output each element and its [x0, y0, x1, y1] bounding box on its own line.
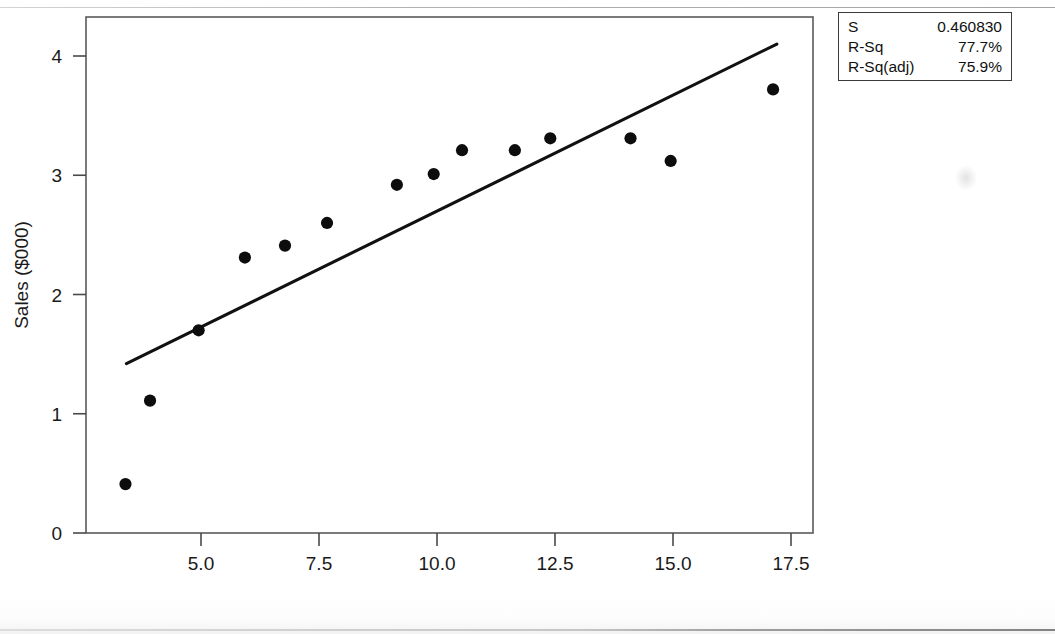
- regression-line: [126, 44, 776, 364]
- x-axis-title: Advertising Expenditures ($000): [314, 600, 584, 621]
- regression-stats-box: S 0.460830 R-Sq 77.7% R-Sq(adj) 75.9%: [838, 12, 1012, 81]
- data-point: [544, 132, 556, 144]
- data-point: [665, 155, 677, 167]
- scan-artifact-bottom-line: [0, 629, 1055, 631]
- x-axis-tick-label: 5.0: [188, 553, 214, 574]
- stat-label-s: S: [848, 17, 858, 37]
- data-point: [624, 132, 636, 144]
- data-point: [509, 144, 521, 156]
- stat-label-r-sq-adj: R-Sq(adj): [848, 57, 914, 77]
- data-point: [144, 395, 156, 407]
- stat-row: R-Sq(adj) 75.9%: [848, 57, 1002, 77]
- data-point: [193, 324, 205, 336]
- stat-value-r-sq-adj: 75.9%: [958, 57, 1002, 77]
- data-point: [321, 217, 333, 229]
- x-axis-tick-label: 15.0: [655, 553, 692, 574]
- x-axis-tick-label: 17.5: [773, 553, 810, 574]
- data-point: [279, 240, 291, 252]
- data-point: [428, 168, 440, 180]
- y-axis-tick-label: 4: [51, 46, 62, 67]
- y-axis-title: Sales ($000): [11, 221, 32, 329]
- y-axis-tick-label: 2: [51, 285, 62, 306]
- data-point: [119, 478, 131, 490]
- y-axis-tick-label: 1: [51, 404, 62, 425]
- data-point: [391, 179, 403, 191]
- plot-frame: [86, 17, 813, 533]
- stat-row: S 0.460830: [848, 17, 1002, 37]
- y-axis-tick-label: 0: [51, 523, 62, 544]
- scatter-plot-figure: 5.07.510.012.515.017.501234Advertising E…: [0, 0, 1055, 634]
- x-axis-tick-label: 10.0: [419, 553, 456, 574]
- x-axis-tick-label: 7.5: [306, 553, 332, 574]
- stat-value-r-sq: 77.7%: [958, 37, 1002, 57]
- stat-label-r-sq: R-Sq: [848, 37, 883, 57]
- stat-row: R-Sq 77.7%: [848, 37, 1002, 57]
- data-point: [456, 144, 468, 156]
- data-point: [767, 83, 779, 95]
- stat-value-s: 0.460830: [937, 17, 1002, 37]
- x-axis-tick-label: 12.5: [537, 553, 574, 574]
- data-point: [239, 251, 251, 263]
- y-axis-tick-label: 3: [51, 165, 62, 186]
